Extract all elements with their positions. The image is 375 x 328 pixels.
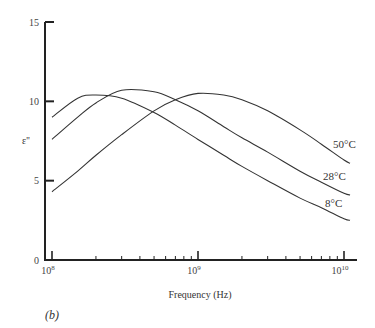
y-tick-label: 10 <box>29 96 39 107</box>
curve-label: 28°C <box>323 170 346 182</box>
panel-label: (b) <box>45 308 59 322</box>
x-axis-title: Frequency (Hz) <box>168 289 231 301</box>
curve-28c <box>52 89 350 194</box>
labels: 0510151081091010ε''Frequency (Hz)(b)50°C… <box>22 17 356 323</box>
curve-label: 50°C <box>333 138 356 150</box>
x-tick-label: 109 <box>187 264 201 276</box>
curves <box>52 89 350 220</box>
y-axis-title: ε'' <box>22 135 30 146</box>
y-tick-label: 15 <box>29 17 39 28</box>
curve-50c <box>52 93 350 192</box>
curve-label: 8°C <box>325 197 342 209</box>
y-tick-label: 0 <box>34 255 39 266</box>
x-tick-label: 1010 <box>332 264 350 276</box>
y-tick-label: 5 <box>34 175 39 186</box>
dielectric-loss-chart: 0510151081091010ε''Frequency (Hz)(b)50°C… <box>0 0 375 328</box>
x-tick-label: 108 <box>41 264 55 276</box>
curve-8c <box>52 95 350 220</box>
